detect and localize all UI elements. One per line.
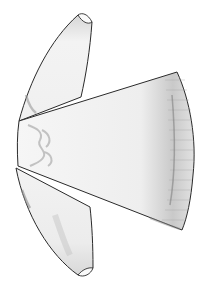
- garment-drawing: [0, 0, 212, 290]
- illustration-canvas: Line drawing of a tunic / dalmatic garme…: [0, 0, 212, 290]
